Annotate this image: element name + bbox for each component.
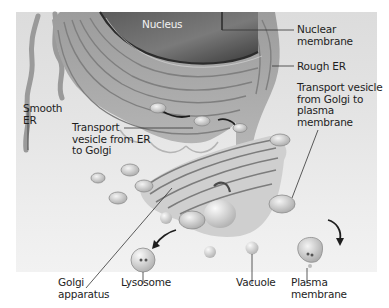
plasma-membrane-vesicle [298,220,344,268]
label-lysosome: Lysosome [121,277,171,289]
label-transport-vesicle-er-golgi: Transport vesicle from ER to Golgi [72,122,150,157]
lysosome-shape [131,230,176,272]
label-vacuole: Vacuole [236,277,276,289]
label-plasma-membrane: Plasma membrane [291,277,347,300]
label-transport-vesicle-golgi-pm: Transport vesicle from Golgi to plasma m… [297,82,382,128]
label-smooth-er: Smooth ER [23,103,62,126]
label-rough-er: Rough ER [297,61,346,73]
label-golgi-apparatus: Golgi apparatus [58,277,109,300]
vacuole-shape [246,242,259,255]
label-nucleus: Nucleus [142,19,182,31]
label-nuclear-membrane: Nuclear membrane [297,24,353,47]
